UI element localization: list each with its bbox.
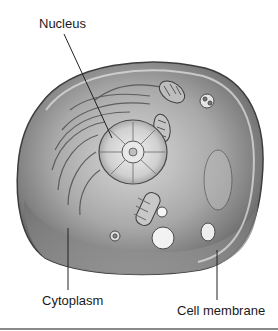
cell-diagram: Nucleus Cytoplasm Cell membrane [0, 0, 278, 331]
nucleus [99, 120, 167, 184]
cell-illustration [0, 0, 278, 331]
nucleus-label: Nucleus [39, 17, 86, 30]
cytoplasm-label: Cytoplasm [42, 294, 103, 307]
cell-membrane-label: Cell membrane [177, 304, 265, 317]
bottom-divider [0, 328, 278, 330]
